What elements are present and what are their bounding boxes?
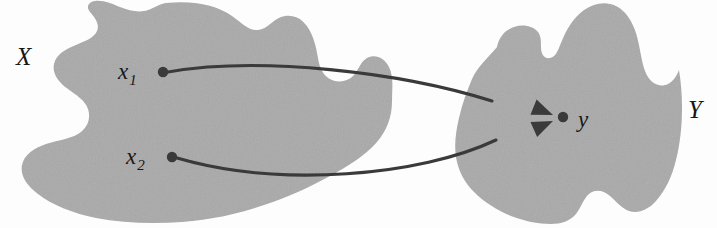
point-dot-x2 — [167, 152, 177, 162]
point-dot-x1 — [158, 67, 168, 77]
element-label-x2: x2 — [126, 145, 144, 168]
element-label-x1-subscript: 1 — [129, 72, 137, 88]
point-dot-y — [558, 112, 568, 122]
element-label-y: y — [578, 108, 588, 131]
set-x-region — [22, 1, 393, 223]
figure-canvas — [0, 0, 717, 228]
set-y-region — [455, 3, 682, 224]
element-label-x2-subscript: 2 — [137, 157, 145, 173]
element-label-x2-base: x — [126, 144, 136, 169]
element-label-x1-base: x — [118, 59, 128, 84]
element-label-y-base: y — [578, 107, 588, 132]
set-label-y: Y — [688, 97, 702, 122]
set-label-x: X — [16, 44, 31, 69]
set-mapping-figure: X Y x1 x2 y — [0, 0, 717, 228]
element-label-x1: x1 — [118, 60, 136, 83]
